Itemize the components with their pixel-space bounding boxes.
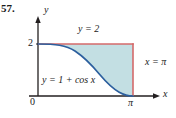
origin-label: 0 [30,97,35,107]
x-axis-label: x [163,89,167,99]
annotation-curve-equation: y = 1 + cos x [42,75,95,85]
x-tick-label-pi: π [128,98,133,108]
x-axis-arrowhead [153,93,160,98]
figure-container: 57. y x 2 0 π y = 2 x = π y = 1 + cos x [0,0,176,118]
shaded-region [38,44,133,96]
annotation-y-equals-2: y = 2 [78,24,99,34]
annotation-x-equals-pi: x = π [145,57,166,67]
y-axis-label: y [44,5,48,15]
y-tick-label-2: 2 [28,38,33,48]
y-axis-arrowhead [35,16,40,23]
